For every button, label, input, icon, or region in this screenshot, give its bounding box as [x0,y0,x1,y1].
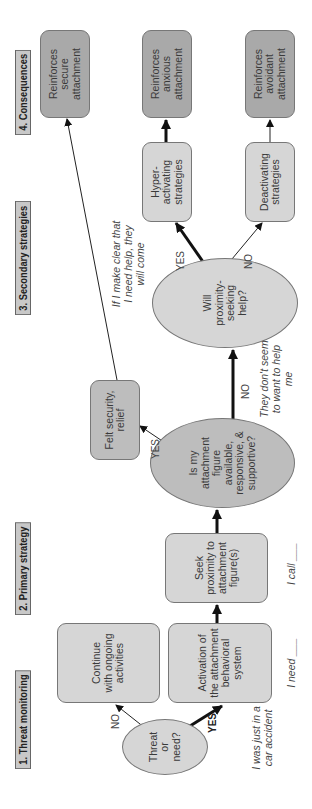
available-label: Is my attachment figure available, respo… [188,430,257,496]
avoidant-label: Reinforces avoidant attachment [253,43,288,105]
reinforces-anxious-box: Reinforces anxious attachment [142,30,192,118]
available-no-label: NO [240,384,251,399]
section-secondary-strategies: 3. Secondary strategies [15,202,31,315]
activation-box: Activation of the attachment behavioral … [168,623,272,703]
hyperactivating-box: Hyper-activating strategies [142,142,192,222]
secure-label: Reinforces secure attachment [48,43,83,105]
note-i-call: I call ___ [285,529,297,599]
reinforces-avoidant-box: Reinforces avoidant attachment [245,30,295,118]
section-consequences: 4. Consequences [15,50,31,135]
felt-security-label: Felt security, relief [104,386,127,454]
section-primary-strategy: 2. Primary strategy [15,522,31,615]
available-yes-label: YES [150,439,161,459]
note-car-accident: I was just in a car accident [250,703,274,773]
will-help-label: Will proximity-seeking help? [202,275,248,331]
seek-label: Seek proximity to attachment figure(s) [194,536,240,600]
will-no-label: NO [243,254,254,269]
continue-label: Continue with ongoing activities [91,633,126,693]
will-yes-label: YES [175,251,186,271]
hyper-label: Hyper-activating strategies [150,151,185,213]
threat-or-need-oval: Threat or need? [122,719,208,775]
section-threat-monitoring: 1. Threat monitoring [15,670,31,769]
threat-no-label: NO [110,714,121,729]
seek-proximity-box: Seek proximity to attachment figure(s) [165,533,268,603]
activation-label: Activation of the attachment behavioral … [197,626,243,700]
note-dont-want: They don't seem to want to help me [258,339,294,419]
threat-label: Threat or need? [148,727,183,767]
continue-activities-box: Continue with ongoing activities [57,623,160,703]
note-make-clear: If I make clear that I need help, they w… [110,219,146,309]
is-figure-available-oval: Is my attachment figure available, respo… [150,418,295,508]
reinforces-secure-box: Reinforces secure attachment [40,30,90,118]
attachment-flowchart: 1. Threat monitoring 2. Primary strategy… [0,0,312,809]
will-proximity-help-oval: Will proximity-seeking help? [152,258,298,348]
deactivating-label: Deactivating strategies [259,147,282,217]
anxious-label: Reinforces anxious attachment [150,43,185,105]
note-i-need: I need ___ [285,623,297,703]
threat-yes-label: YES [207,713,218,733]
deactivating-box: Deactivating strategies [245,142,295,222]
felt-security-box: Felt security, relief [90,380,140,460]
